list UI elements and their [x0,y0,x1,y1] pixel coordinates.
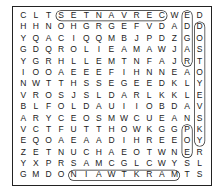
grid-letter[interactable]: E [156,135,169,146]
grid-letter[interactable]: A [93,101,106,112]
grid-letter[interactable]: Y [17,56,30,67]
grid-letter[interactable]: L [80,56,93,67]
grid-letter[interactable]: L [143,90,156,101]
grid-letter[interactable]: F [105,67,118,78]
grid-letter[interactable]: T [118,56,131,67]
grid-letter[interactable]: K [143,124,156,135]
grid-letter[interactable]: E [143,10,156,21]
grid-letter[interactable]: A [156,56,169,67]
grid-letter[interactable]: G [17,44,30,55]
grid-letter[interactable]: H [105,124,118,135]
grid-letter[interactable]: V [118,10,131,21]
grid-letter[interactable]: N [156,67,169,78]
grid-letter[interactable]: L [130,158,143,169]
grid-letter[interactable]: L [67,101,80,112]
grid-letter[interactable]: D [156,78,169,89]
grid-letter[interactable]: S [55,90,68,101]
grid-letter[interactable]: A [55,135,68,146]
grid-letter[interactable]: W [156,158,169,169]
grid-letter[interactable]: C [105,158,118,169]
grid-letter[interactable]: P [42,158,55,169]
grid-letter[interactable]: Y [17,33,30,44]
grid-letter[interactable]: N [55,147,68,158]
grid-letter[interactable]: T [42,147,55,158]
grid-letter[interactable]: C [55,33,68,44]
grid-letter[interactable]: S [55,10,68,21]
grid-letter[interactable]: J [67,90,80,101]
grid-letter[interactable]: R [93,21,106,32]
grid-letter[interactable]: E [30,147,43,158]
grid-letter[interactable]: R [30,113,43,124]
grid-letter[interactable]: E [67,135,80,146]
grid-letter[interactable]: N [181,113,194,124]
grid-letter[interactable]: E [193,90,206,101]
grid-letter[interactable]: V [143,21,156,32]
grid-letter[interactable]: N [168,147,181,158]
grid-letter[interactable]: U [143,113,156,124]
grid-letter[interactable]: O [143,101,156,112]
grid-letter[interactable]: A [143,44,156,55]
grid-letter[interactable]: C [156,10,169,21]
grid-letter[interactable]: I [130,101,143,112]
grid-letter[interactable]: S [80,90,93,101]
grid-letter[interactable]: W [130,124,143,135]
grid-letter[interactable]: A [55,67,68,78]
grid-letter[interactable]: S [193,113,206,124]
grid-letter[interactable]: H [67,21,80,32]
grid-letter[interactable]: A [118,44,131,55]
grid-letter[interactable]: O [42,90,55,101]
grid-letter[interactable]: H [130,67,143,78]
grid-letter[interactable]: B [118,33,131,44]
grid-letter[interactable]: L [30,101,43,112]
grid-letter[interactable]: U [67,124,80,135]
grid-letter[interactable]: T [42,78,55,89]
grid-letter[interactable]: R [130,90,143,101]
grid-letter[interactable]: O [42,67,55,78]
grid-letter[interactable]: W [105,169,118,180]
grid-letter[interactable]: I [118,101,131,112]
grid-letter[interactable]: I [118,67,131,78]
grid-letter[interactable]: S [80,78,93,89]
grid-letter[interactable]: O [55,101,68,112]
grid-letter[interactable]: F [143,56,156,67]
grid-letter[interactable]: S [67,158,80,169]
grid-letter[interactable]: A [42,33,55,44]
grid-letter[interactable]: R [30,90,43,101]
grid-letter[interactable]: Q [30,33,43,44]
grid-letter[interactable]: G [156,124,169,135]
grid-letter[interactable]: A [181,67,194,78]
grid-letter[interactable]: O [80,113,93,124]
grid-letter[interactable]: D [30,44,43,55]
grid-letter[interactable]: M [105,56,118,67]
grid-letter[interactable]: P [181,124,194,135]
grid-letter[interactable]: R [55,44,68,55]
grid-letter[interactable]: B [156,101,169,112]
grid-letter[interactable]: S [193,169,206,180]
grid-letter[interactable]: E [168,135,181,146]
grid-letter[interactable]: H [17,21,30,32]
grid-letter[interactable]: W [156,44,169,55]
grid-letter[interactable]: I [118,135,131,146]
grid-letter[interactable]: E [130,78,143,89]
grid-letter[interactable]: E [181,10,194,21]
grid-letter[interactable]: T [181,169,194,180]
grid-letter[interactable]: A [118,90,131,101]
grid-letter[interactable]: C [80,147,93,158]
grid-letter[interactable]: O [67,44,80,55]
grid-letter[interactable]: O [130,147,143,158]
grid-letter[interactable]: H [130,135,143,146]
grid-letter[interactable]: T [143,147,156,158]
grid-letter[interactable]: W [118,113,131,124]
grid-letter[interactable]: A [181,101,194,112]
grid-letter[interactable]: C [17,10,30,21]
grid-letter[interactable]: G [30,56,43,67]
grid-letter[interactable]: G [80,21,93,32]
grid-letter[interactable]: E [181,147,194,158]
grid-letter[interactable]: O [181,135,194,146]
grid-letter[interactable]: G [105,21,118,32]
grid-letter[interactable]: I [17,67,30,78]
grid-letter[interactable]: Q [80,33,93,44]
grid-letter[interactable]: L [30,10,43,21]
grid-letter[interactable]: Y [168,158,181,169]
grid-letter[interactable]: D [156,21,169,32]
